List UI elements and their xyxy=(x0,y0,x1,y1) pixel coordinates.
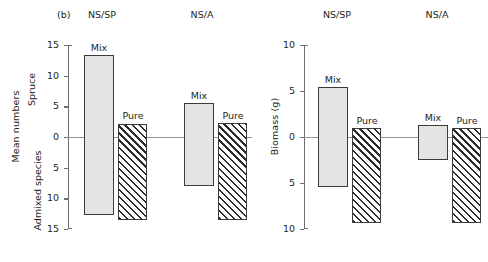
bar-ns-sp-mix-biomass xyxy=(318,87,348,186)
bar-label-ns-sp-mix-biomass: Mix xyxy=(308,74,358,85)
bar-ns-sp-pure-biomass xyxy=(352,128,381,223)
bar-ns-a-pure-numbers xyxy=(218,123,247,220)
group-header-ns-sp-numbers: NS/SP xyxy=(72,9,132,20)
group-header-ns-sp-biomass: NS/SP xyxy=(307,9,367,20)
bar-ns-sp-mix-numbers xyxy=(84,55,114,215)
bar-ns-a-mix-biomass xyxy=(418,125,448,160)
y-tick-label-5-pos-biomass: 5 xyxy=(271,85,295,96)
y-tick-label-15-neg: 15 xyxy=(35,223,59,234)
y-tick-5-neg xyxy=(64,168,69,169)
y-tick-label-10-neg: 10 xyxy=(35,192,59,203)
y-tick-10-neg-biomass xyxy=(300,229,305,230)
y-tick-label-10-pos-biomass: 10 xyxy=(271,39,295,50)
chart-mean-numbers: Mean numbers Spruce Admixed species NS/S… xyxy=(0,0,252,262)
bar-label-ns-sp-pure-numbers: Pure xyxy=(107,110,159,121)
group-header-ns-a-biomass: NS/A xyxy=(407,9,467,20)
y-tick-label-5-neg: 5 xyxy=(35,162,59,173)
bar-label-ns-a-pure-biomass: Pure xyxy=(441,115,488,126)
y-tick-label-10-neg-biomass: 10 xyxy=(271,223,295,234)
plot-area-mean-numbers: 15 10 5 0 5 10 15 Mix Pure Mix Pure xyxy=(68,45,252,229)
figure-panel-b: (b) Mean numbers Spruce Admixed species … xyxy=(0,0,488,262)
y-tick-label-0-biomass: 0 xyxy=(271,131,295,142)
chart-biomass: Biomass (g) NS/SP NS/A 10 5 0 5 10 Mix xyxy=(252,0,488,262)
y-tick-5-neg-biomass xyxy=(300,183,305,184)
bar-label-ns-sp-mix-numbers: Mix xyxy=(74,42,124,53)
y-tick-label-10-pos: 10 xyxy=(35,70,59,81)
axis-cap-bottom-biomass xyxy=(304,228,308,229)
plot-area-biomass: 10 5 0 5 10 Mix Pure Mix Pure xyxy=(304,45,488,229)
bar-ns-a-pure-biomass xyxy=(452,128,481,223)
axis-cap-top-numbers xyxy=(68,45,72,46)
y-tick-label-0: 0 xyxy=(35,131,59,142)
y-tick-5-pos xyxy=(64,106,69,107)
y-axis-title-mean-numbers: Mean numbers xyxy=(10,89,21,165)
axis-cap-top-biomass xyxy=(304,45,308,46)
group-header-ns-a-numbers: NS/A xyxy=(172,9,232,20)
y-tick-label-5-pos: 5 xyxy=(35,100,59,111)
bar-label-ns-sp-pure-biomass: Pure xyxy=(341,115,393,126)
y-tick-label-5-neg-biomass: 5 xyxy=(271,177,295,188)
axis-cap-bottom-numbers xyxy=(68,228,72,229)
y-tick-10-neg xyxy=(64,198,69,199)
bar-label-ns-a-mix-numbers: Mix xyxy=(174,90,224,101)
y-tick-15-pos xyxy=(64,45,69,46)
y-tick-10-pos-biomass xyxy=(300,45,305,46)
y-tick-label-15-pos: 15 xyxy=(35,39,59,50)
bar-ns-sp-pure-numbers xyxy=(118,124,147,221)
y-axis-title-biomass: Biomass (g) xyxy=(269,89,280,165)
y-tick-5-pos-biomass xyxy=(300,91,305,92)
y-tick-15-neg xyxy=(64,229,69,230)
y-tick-10-pos xyxy=(64,76,69,77)
